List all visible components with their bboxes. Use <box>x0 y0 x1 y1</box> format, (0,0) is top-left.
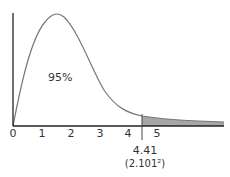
x-tick-2: 2 <box>68 128 75 139</box>
critical-value-note: (2.101²) <box>125 159 165 169</box>
chart-canvas <box>0 0 230 177</box>
x-tick-1: 1 <box>39 128 46 139</box>
percent-label: 95% <box>48 72 72 83</box>
x-tick-4: 4 <box>125 128 132 139</box>
critical-value-label: 4.41 <box>133 145 158 156</box>
density-curve <box>13 14 224 126</box>
x-tick-0: 0 <box>10 128 17 139</box>
x-tick-5: 5 <box>154 128 161 139</box>
x-tick-3: 3 <box>97 128 104 139</box>
